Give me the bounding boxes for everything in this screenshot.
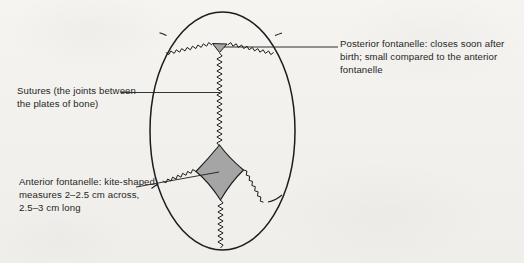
- coronal-right-tail: [268, 195, 282, 202]
- lambdoid-right-tail: [275, 33, 282, 36]
- lambdoid-suture-right: [228, 43, 274, 55]
- anatomy-figure: Posterior fontanelle: closes soon after …: [0, 0, 524, 263]
- label-anterior-fontanelle: Anterior fontanelle: kite-shaped; measur…: [19, 175, 159, 214]
- frontal-suture: [218, 200, 223, 248]
- anterior-fontanelle-kite: [196, 145, 244, 200]
- label-posterior-fontanelle: Posterior fontanelle: closes soon after …: [340, 37, 520, 76]
- lambdoid-left-tail: [160, 33, 167, 36]
- label-sutures: Sutures (the joints between the plates o…: [17, 84, 147, 110]
- coronal-suture-right: [244, 170, 264, 202]
- sagittal-suture: [217, 53, 222, 146]
- posterior-fontanelle-triangle: [213, 44, 228, 53]
